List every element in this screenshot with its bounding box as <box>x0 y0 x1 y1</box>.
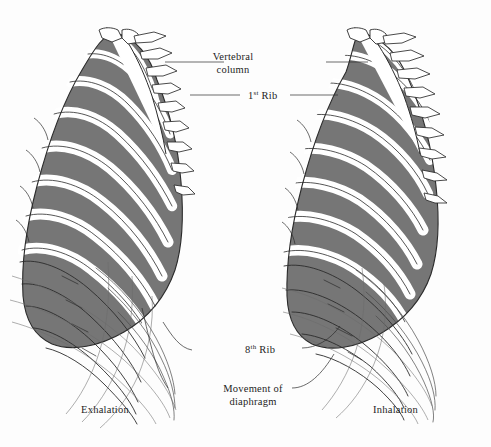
caption-inhalation: Inhalation <box>373 404 418 417</box>
label-first-rib: 1st Rib <box>248 90 277 103</box>
label-eighth-rib-word: Rib <box>259 344 275 355</box>
label-vertebral-column: Vertebral column <box>191 51 275 76</box>
label-first-rib-ordinal: st <box>254 89 259 97</box>
label-eighth-rib: 8th Rib <box>245 344 275 357</box>
label-movement-of-diaphragm: Movement of diaphragm <box>206 383 300 408</box>
label-first-rib-word: Rib <box>262 90 278 101</box>
label-diaphragm-line1: Movement of <box>223 383 283 394</box>
label-vertebral-column-line2: column <box>217 64 250 75</box>
label-diaphragm-line2: diaphragm <box>229 396 276 407</box>
ribcage-diagram: Vertebral column 1st Rib 8th Rib Movemen… <box>0 0 491 447</box>
label-vertebral-column-line1: Vertebral <box>213 51 254 62</box>
caption-exhalation: Exhalation <box>81 404 129 417</box>
label-eighth-rib-ordinal: th <box>251 343 257 351</box>
